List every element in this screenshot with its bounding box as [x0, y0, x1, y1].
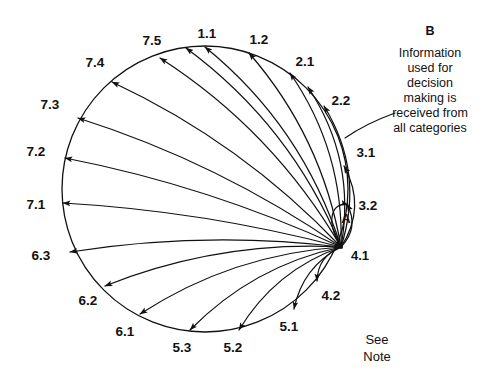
callout-b-line-1: Information [399, 46, 462, 60]
callout-b-line-3: decision [407, 76, 453, 90]
node-label-7-5: 7.5 [143, 33, 162, 48]
callout-b-line-5: received from [392, 106, 468, 120]
see-note-line-1: See [365, 332, 388, 347]
node-label-group: 1.11.22.12.23.13.24.25.15.25.36.16.26.37… [27, 26, 378, 355]
node-label-7-1: 7.1 [27, 197, 46, 212]
node-label-6-3: 6.3 [32, 248, 51, 263]
node-label-6-1: 6.1 [116, 324, 135, 339]
node-label-7-4: 7.4 [86, 55, 105, 70]
hub-marker-label-a: A [341, 211, 351, 226]
node-label-1-1: 1.1 [198, 26, 217, 41]
callout-b-line-4: making is [404, 91, 457, 105]
callout-letter-b: B [425, 24, 434, 38]
see-note-line-2: Note [363, 349, 390, 364]
node-label-3-1: 3.1 [357, 145, 376, 160]
flow-arrow-7-3 [78, 118, 341, 247]
node-label-2-2: 2.2 [332, 93, 351, 108]
flow-arrow-7-2 [65, 158, 341, 247]
node-label-2-1: 2.1 [296, 54, 315, 69]
node-label-7-3: 7.3 [41, 97, 60, 112]
node-label-1-2: 1.2 [250, 32, 269, 47]
hub-point [339, 245, 343, 249]
node-label-6-2: 6.2 [79, 293, 98, 308]
node-label-3-2: 3.2 [359, 198, 378, 213]
flow-arrow-1-2 [249, 53, 341, 247]
callout-b-text: Informationused fordecisionmaking isrece… [392, 46, 468, 135]
flow-arrow-7-5 [160, 58, 341, 247]
radial-information-flow-diagram: 1.11.22.12.23.13.24.25.15.25.36.16.26.37… [0, 0, 486, 379]
hub-label-4-1: 4.1 [351, 248, 369, 263]
flow-arrow-6-1 [140, 247, 341, 314]
node-label-7-2: 7.2 [27, 144, 46, 159]
node-label-5-3: 5.3 [173, 340, 192, 355]
boundary-circle [62, 46, 348, 332]
see-note-text: SeeNote [363, 332, 390, 364]
node-label-4-2: 4.2 [322, 288, 341, 303]
callout-b-line-2: used for [407, 61, 452, 75]
flow-arrow-1-1b [186, 48, 341, 247]
flow-arc-group [63, 47, 355, 330]
callout-b-line-6: all categories [393, 121, 467, 135]
node-label-5-2: 5.2 [224, 340, 243, 355]
callout-leader-line [345, 113, 395, 138]
node-label-5-1: 5.1 [280, 319, 299, 334]
